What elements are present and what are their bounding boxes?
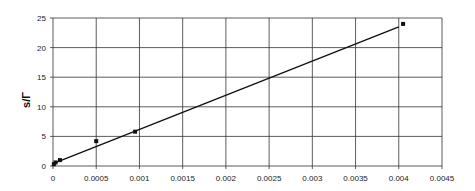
y-tick-label: 0 [42, 162, 47, 171]
chart: 00.00050.0010.00150.0020.00250.0030.0035… [0, 0, 475, 191]
x-tick-label: 0.003 [302, 174, 323, 183]
x-tick-label: 0.0045 [430, 174, 455, 183]
y-tick-label: 10 [37, 103, 46, 112]
x-tick-label: 0 [51, 174, 56, 183]
y-tick-label: 5 [42, 132, 47, 141]
x-tick-label: 0.0015 [170, 174, 195, 183]
y-tick-label: 25 [37, 14, 46, 23]
x-tick-label: 0.004 [389, 174, 410, 183]
y-tick-label: 20 [37, 44, 46, 53]
x-tick-label: 0.002 [216, 174, 237, 183]
gridlines [50, 18, 442, 169]
y-tick-label: 15 [37, 73, 46, 82]
y-axis-ticks: 0510152025 [37, 14, 46, 171]
x-tick-label: 0.001 [129, 174, 150, 183]
x-tick-label: 0.0035 [343, 174, 368, 183]
plot-series [52, 22, 405, 166]
data-point-marker [94, 139, 98, 143]
data-point-marker [401, 22, 405, 26]
x-tick-label: 0.0025 [257, 174, 282, 183]
y-axis-label: s/Γ [20, 92, 32, 108]
x-axis-ticks: 00.00050.0010.00150.0020.00250.0030.0035… [51, 174, 455, 183]
x-tick-label: 0.0005 [84, 174, 109, 183]
